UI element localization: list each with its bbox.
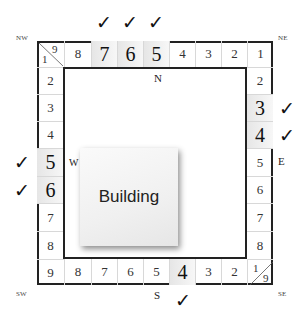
space-top-4[interactable]: 4 bbox=[169, 41, 195, 67]
space-right-4[interactable]: 4 bbox=[247, 121, 273, 148]
space-right-3[interactable]: 3 bbox=[247, 94, 273, 121]
space-top-7[interactable]: 7 bbox=[91, 41, 117, 67]
corner-se-top-number: 1 bbox=[253, 262, 259, 274]
check-icon: ✓ bbox=[14, 181, 30, 200]
corner-nw-top-number: 9 bbox=[52, 43, 58, 55]
building: Building bbox=[80, 148, 178, 246]
space-left-2[interactable]: 2 bbox=[37, 67, 64, 94]
check-icon: ✓ bbox=[279, 126, 295, 145]
corner-label-nw: NW bbox=[16, 34, 28, 42]
space-top-1[interactable]: 1 bbox=[247, 41, 273, 67]
space-left-4[interactable]: 4 bbox=[37, 121, 64, 148]
corner-nw-bottom-number: 1 bbox=[42, 53, 48, 65]
space-bottom-2[interactable]: 2 bbox=[221, 259, 247, 285]
corner-label-sw: SW bbox=[16, 290, 27, 298]
space-left-3[interactable]: 3 bbox=[37, 94, 64, 121]
space-left-8[interactable]: 8 bbox=[37, 231, 64, 259]
space-bottom-6[interactable]: 6 bbox=[117, 259, 143, 285]
check-icon: ✓ bbox=[14, 153, 30, 172]
space-left-7[interactable]: 7 bbox=[37, 203, 64, 231]
direction-label-north: N bbox=[154, 72, 162, 84]
check-icon: ✓ bbox=[175, 291, 191, 310]
space-bottom-4[interactable]: 4 bbox=[169, 259, 195, 285]
diagonal-divider-icon bbox=[248, 260, 274, 286]
space-right-7[interactable]: 7 bbox=[247, 203, 273, 231]
space-top-2[interactable]: 2 bbox=[221, 41, 247, 67]
corner-cell-nw: 9 1 bbox=[37, 41, 64, 67]
space-right-8[interactable]: 8 bbox=[247, 231, 273, 259]
direction-label-west: W bbox=[69, 157, 78, 168]
direction-label-east: E bbox=[278, 155, 285, 167]
corner-se-bottom-number: 9 bbox=[263, 272, 269, 284]
space-bottom-7[interactable]: 7 bbox=[91, 259, 117, 285]
space-top-6[interactable]: 6 bbox=[117, 41, 143, 67]
corner-label-ne: NE bbox=[278, 34, 288, 42]
space-right-5[interactable]: 5 bbox=[247, 148, 273, 176]
space-right-6[interactable]: 6 bbox=[247, 176, 273, 203]
space-top-5[interactable]: 5 bbox=[143, 41, 169, 67]
check-icon: ✓ bbox=[96, 13, 112, 32]
space-left-6[interactable]: 6 bbox=[37, 176, 64, 203]
building-label: Building bbox=[99, 187, 160, 207]
corner-label-se: SE bbox=[278, 290, 287, 298]
space-right-2[interactable]: 2 bbox=[247, 67, 273, 94]
space-top-3[interactable]: 3 bbox=[195, 41, 221, 67]
check-icon: ✓ bbox=[148, 13, 164, 32]
corner-cell-se: 1 9 bbox=[247, 259, 273, 285]
space-bottom-9[interactable]: 9 bbox=[37, 259, 64, 285]
check-icon: ✓ bbox=[122, 13, 138, 32]
parking-space-diagram: NW NE SW SE 9 1 8 7 6 5 4 3 2 1 2 3 4 5 … bbox=[0, 0, 306, 323]
direction-label-south: S bbox=[154, 289, 160, 301]
space-top-8[interactable]: 8 bbox=[64, 41, 91, 67]
space-bottom-3[interactable]: 3 bbox=[195, 259, 221, 285]
space-bottom-8[interactable]: 8 bbox=[64, 259, 91, 285]
space-left-5[interactable]: 5 bbox=[37, 148, 64, 176]
space-bottom-5[interactable]: 5 bbox=[143, 259, 169, 285]
check-icon: ✓ bbox=[279, 99, 295, 118]
